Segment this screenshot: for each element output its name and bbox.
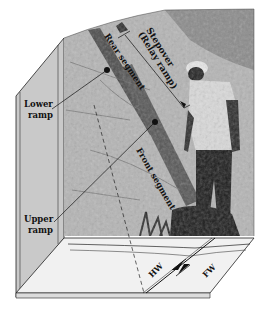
label-upper-ramp-line2: ramp	[28, 225, 53, 235]
fault-block-diagram: Stepover (Relay ramp) Rear segment Front…	[0, 0, 268, 311]
label-lower-ramp-line2: ramp	[28, 110, 53, 120]
label-upper-ramp-line1: Upper	[24, 214, 54, 224]
label-lower-ramp-line1: Lower	[24, 99, 53, 109]
